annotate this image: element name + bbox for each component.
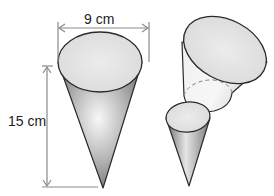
height-label: 15 cm (8, 114, 46, 128)
cone-diagram (0, 0, 274, 196)
width-label: 9 cm (84, 12, 114, 26)
small-cone-piece (165, 100, 212, 186)
full-cone-top-face (58, 32, 142, 92)
full-cone (58, 32, 142, 188)
frustum-piece (172, 3, 274, 112)
